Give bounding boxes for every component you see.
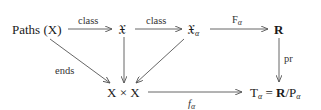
node-frakx: 𝔛 — [118, 23, 126, 36]
node-frakx-label: 𝔛 — [118, 22, 126, 37]
node-t-slash-p: /P — [285, 85, 296, 100]
label-f-sub: α — [238, 18, 242, 27]
label-class-1-text: class — [78, 15, 98, 26]
label-pr: pr — [284, 54, 293, 65]
node-t-r: R — [276, 85, 285, 100]
node-t-equals: = — [262, 85, 276, 100]
label-f-alpha-top: Fα — [232, 15, 242, 27]
label-class-1: class — [78, 16, 98, 27]
label-pr-text: pr — [284, 53, 293, 64]
arrow-frakx-alpha-to-xx — [136, 39, 184, 83]
node-t-p-sub: α — [296, 92, 300, 101]
label-ends-text: ends — [55, 65, 74, 76]
label-class-2-text: class — [146, 15, 166, 26]
node-r-label: R — [274, 22, 283, 37]
node-frakx-alpha-sub: α — [195, 29, 199, 38]
node-t-alpha: Tα = R/Pα — [250, 86, 300, 101]
node-paths: Paths (X) — [12, 23, 61, 36]
node-paths-label: Paths (X) — [12, 22, 61, 37]
node-xx: X × X — [107, 86, 140, 99]
node-r: R — [274, 23, 283, 36]
node-xx-label: X × X — [107, 85, 140, 100]
node-frakx-alpha-label: 𝔛 — [187, 22, 195, 37]
label-f-alpha-bottom: fα — [188, 99, 195, 110]
label-ends: ends — [55, 66, 74, 77]
label-class-2: class — [146, 16, 166, 27]
node-t-label: T — [250, 85, 258, 100]
node-frakx-alpha: 𝔛α — [187, 23, 199, 38]
label-f-lower-sub: α — [191, 102, 195, 110]
